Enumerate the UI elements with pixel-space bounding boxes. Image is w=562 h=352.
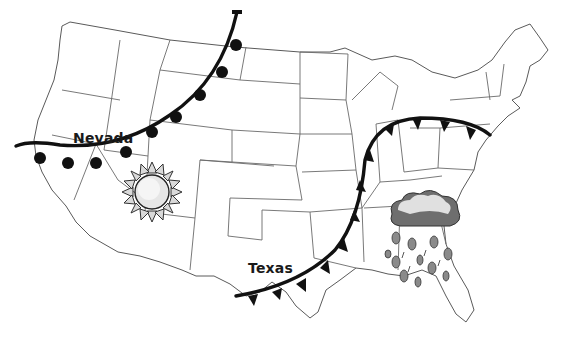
weather-map — [0, 0, 562, 352]
sun-icon — [122, 162, 182, 222]
us-outline — [34, 22, 548, 322]
label-texas: Texas — [248, 260, 293, 276]
label-nevada: Nevada — [73, 130, 133, 146]
